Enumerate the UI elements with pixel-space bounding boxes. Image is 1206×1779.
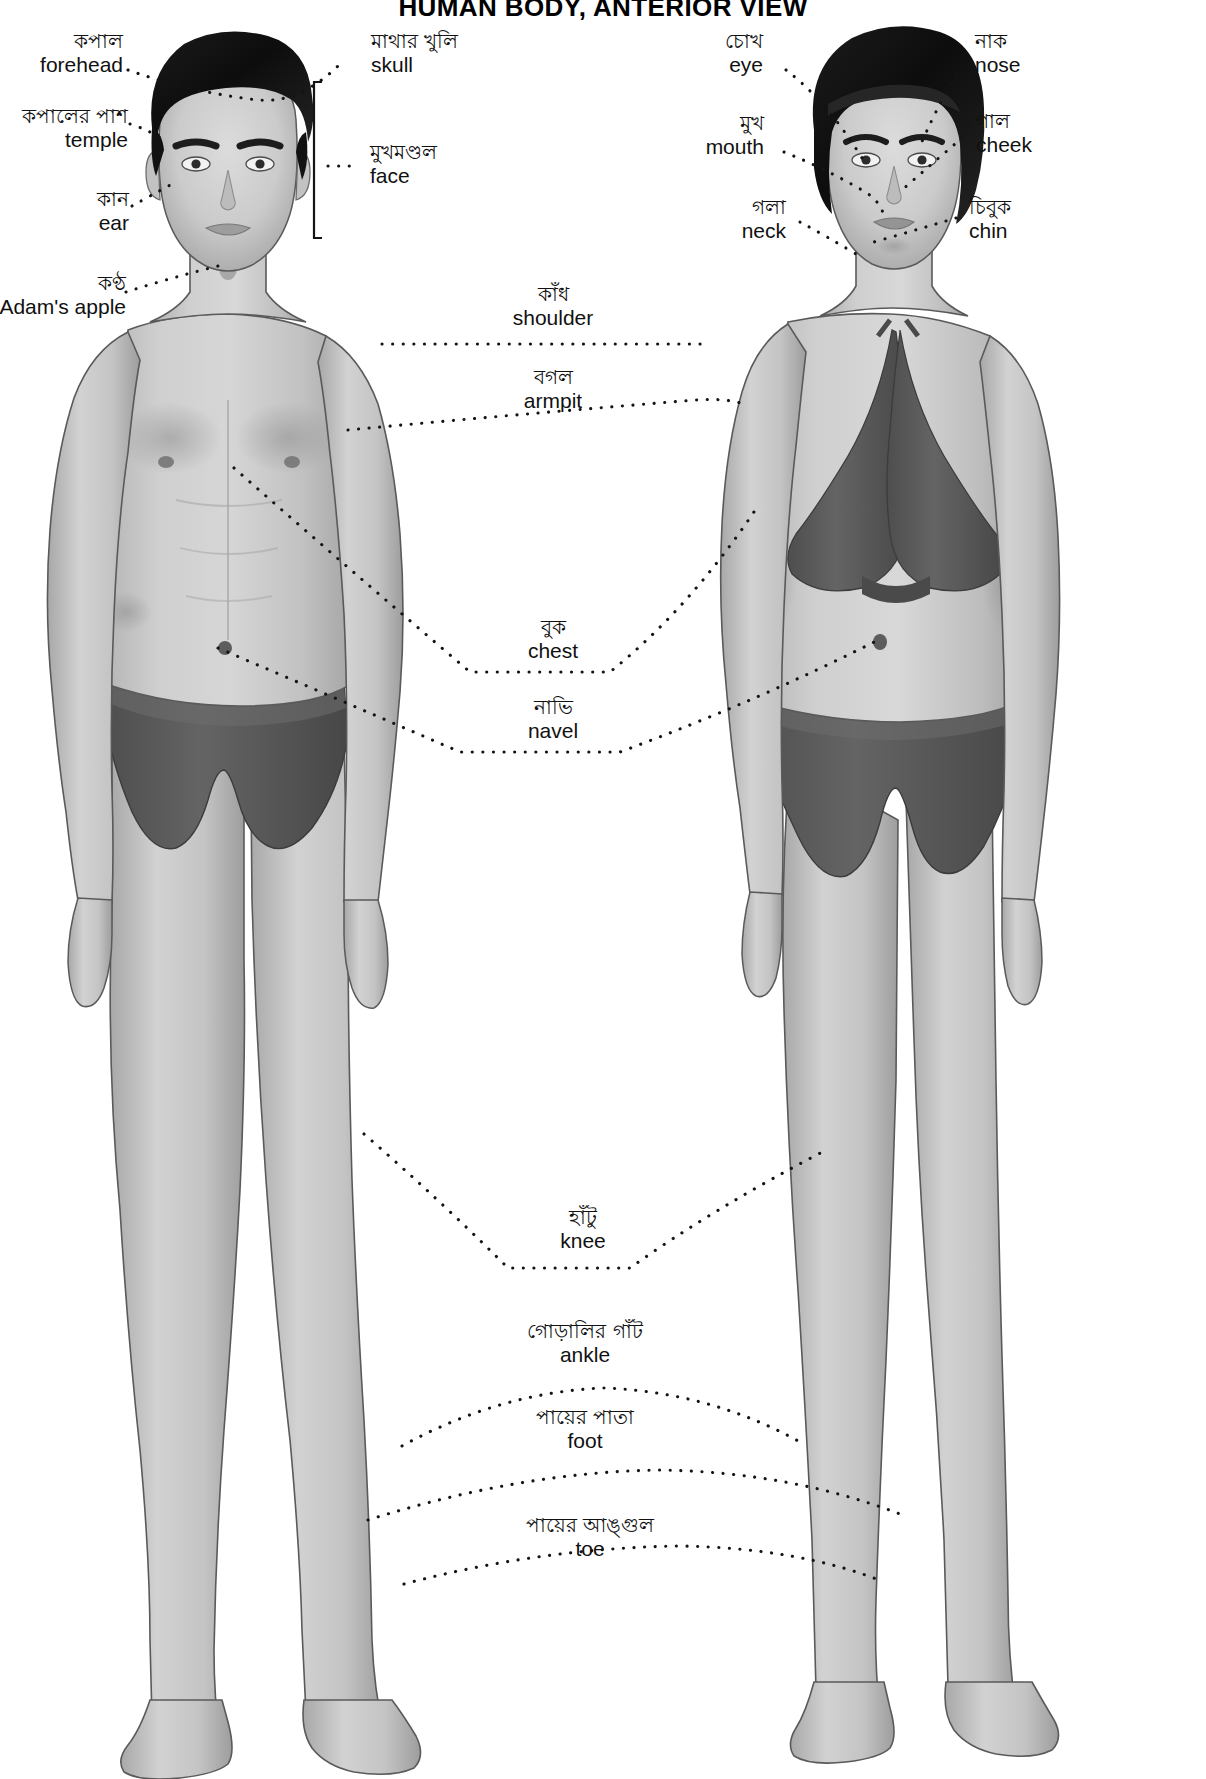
label-temple-bn: কপালের পাশ xyxy=(22,105,128,128)
label-ankle: গোড়ালির গাঁট ankle xyxy=(455,1320,715,1367)
label-ear-bn: কান xyxy=(97,188,129,211)
label-toe: পায়ের আঙ্গুল toe xyxy=(465,1514,715,1561)
label-skull: মাথার খুলি skull xyxy=(371,30,458,77)
label-navel-en: navel xyxy=(453,719,653,743)
label-armpit-bn: বগল xyxy=(453,366,653,389)
label-neck-en: neck xyxy=(742,219,786,243)
label-face-bn: মুখমণ্ডল xyxy=(370,141,437,164)
label-foot-en: foot xyxy=(465,1429,705,1453)
label-forehead-en: forehead xyxy=(40,53,123,77)
label-knee: হাঁটু knee xyxy=(483,1206,683,1253)
label-temple: কপালের পাশ temple xyxy=(22,105,128,152)
label-chest: বুক chest xyxy=(453,616,653,663)
human-body-diagram: HUMAN BODY, ANTERIOR VIEW কপাল forehead … xyxy=(0,0,1206,1779)
label-adams-apple: কণ্ঠ Adam's apple xyxy=(0,272,126,319)
label-toe-en: toe xyxy=(465,1537,715,1561)
label-cheek: গাল cheek xyxy=(976,110,1032,157)
female-navel-point xyxy=(873,634,887,650)
label-shoulder-en: shoulder xyxy=(453,306,653,330)
label-armpit: বগল armpit xyxy=(453,366,653,413)
label-foot-bn: পায়ের পাতা xyxy=(465,1406,705,1429)
label-shoulder: কাঁধ shoulder xyxy=(453,283,653,330)
label-nose: নাক nose xyxy=(975,30,1021,77)
label-ankle-en: ankle xyxy=(455,1343,715,1367)
label-ear: কান ear xyxy=(97,188,129,235)
label-chest-en: chest xyxy=(453,639,653,663)
label-ear-en: ear xyxy=(97,211,129,235)
label-foot: পায়ের পাতা foot xyxy=(465,1406,705,1453)
label-neck: গলা neck xyxy=(742,196,786,243)
label-mouth-en: mouth xyxy=(706,135,764,159)
label-face-en: face xyxy=(370,164,437,188)
label-forehead-bn: কপাল xyxy=(40,30,123,53)
label-mouth: মুখ mouth xyxy=(706,112,764,159)
label-chin: চিবুক chin xyxy=(969,196,1011,243)
label-chest-bn: বুক xyxy=(453,616,653,639)
label-toe-bn: পায়ের আঙ্গুল xyxy=(465,1514,715,1537)
label-adams-apple-en: Adam's apple xyxy=(0,295,126,319)
label-eye-bn: চোখ xyxy=(725,30,763,53)
label-shoulder-bn: কাঁধ xyxy=(453,283,653,306)
label-temple-en: temple xyxy=(22,128,128,152)
label-armpit-en: armpit xyxy=(453,389,653,413)
label-skull-en: skull xyxy=(371,53,458,77)
male-navel-point xyxy=(218,641,232,655)
label-nose-en: nose xyxy=(975,53,1021,77)
label-cheek-en: cheek xyxy=(976,133,1032,157)
label-knee-en: knee xyxy=(483,1229,683,1253)
label-navel-bn: নাভি xyxy=(453,696,653,719)
label-adams-apple-bn: কণ্ঠ xyxy=(0,272,126,295)
label-cheek-bn: গাল xyxy=(976,110,1032,133)
label-forehead: কপাল forehead xyxy=(40,30,123,77)
page-title: HUMAN BODY, ANTERIOR VIEW xyxy=(0,0,1206,23)
label-chin-en: chin xyxy=(969,219,1011,243)
label-knee-bn: হাঁটু xyxy=(483,1206,683,1229)
label-neck-bn: গলা xyxy=(742,196,786,219)
label-navel: নাভি navel xyxy=(453,696,653,743)
label-chin-bn: চিবুক xyxy=(969,196,1011,219)
label-ankle-bn: গোড়ালির গাঁট xyxy=(455,1320,715,1343)
label-eye-en: eye xyxy=(725,53,763,77)
label-face: মুখমণ্ডল face xyxy=(370,141,437,188)
label-eye: চোখ eye xyxy=(725,30,763,77)
label-nose-bn: নাক xyxy=(975,30,1021,53)
label-mouth-bn: মুখ xyxy=(706,112,764,135)
female-figure xyxy=(721,26,1060,1763)
label-skull-bn: মাথার খুলি xyxy=(371,30,458,53)
